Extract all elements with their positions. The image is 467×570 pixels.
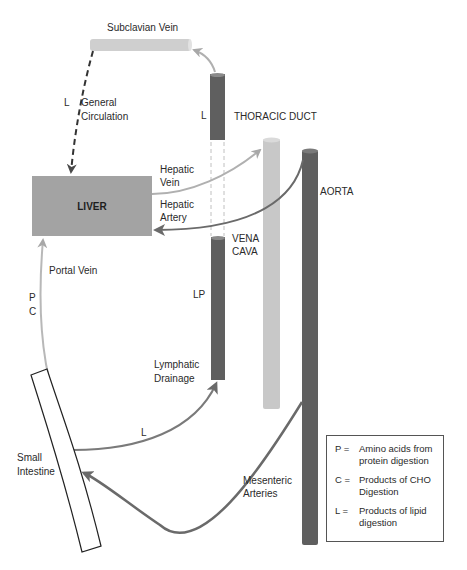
aorta-label: AORTA — [320, 186, 354, 198]
legend-desc: Products of lipid digestion — [359, 505, 437, 529]
legend-row-p: P = Amino acids from protein digestion — [335, 443, 437, 467]
general-circulation-marker: L — [64, 97, 70, 109]
legend-key: P = — [335, 443, 359, 467]
legend-desc: Products of CHO Digestion — [359, 474, 437, 498]
mesenteric-arteries-label-line1: Mesenteric — [243, 475, 292, 487]
thoracic-duct-lower — [211, 236, 225, 380]
legend-box: P = Amino acids from protein digestion C… — [326, 435, 444, 542]
vena-cava — [263, 138, 280, 410]
vena-cava-label-line1: VENA — [232, 233, 259, 245]
vena-cava-label-line2: CAVA — [232, 246, 258, 258]
thoracic-duct-label: THORACIC DUCT — [234, 111, 317, 123]
liver: LIVER — [32, 176, 152, 236]
lymph-marker-lp: LP — [193, 289, 205, 301]
legend-row-l: L = Products of lipid digestion — [335, 505, 437, 529]
subclavian-vein-label: Subclavian Vein — [107, 22, 178, 34]
mesenteric-arteries-label-line2: Arteries — [243, 488, 277, 500]
lymphatic-drainage-label-line1: Lymphatic — [154, 359, 199, 371]
small-intestine-label-line1: Small — [17, 452, 42, 464]
portal-vein-label: Portal Vein — [49, 265, 97, 277]
lymphatic-drainage-label-line2: Drainage — [154, 373, 195, 385]
legend-key: C = — [335, 474, 359, 498]
portal-marker-c: C — [29, 306, 36, 318]
lymphatic-drainage-arrow — [73, 384, 216, 450]
general-circulation-label-line2: Circulation — [81, 111, 128, 123]
thoracic-duct-upper — [210, 73, 225, 140]
mesenteric-arteries-arrow — [84, 402, 302, 533]
small-intestine-label-line2: Intestine — [17, 466, 55, 478]
hepatic-vein-label-line2: Vein — [160, 177, 179, 189]
lipid-path-marker: L — [141, 427, 147, 439]
aorta — [302, 149, 318, 546]
legend-desc: Amino acids from protein digestion — [359, 443, 437, 467]
legend-row-c: C = Products of CHO Digestion — [335, 474, 437, 498]
thoracic-duct-dashed-connection — [211, 142, 224, 236]
hepatic-artery-label-line2: Artery — [160, 212, 187, 224]
hepatic-vein-label-line1: Hepatic — [160, 164, 194, 176]
thoracic-to-subclavian-arrow — [194, 50, 215, 72]
general-circulation-label-line1: General — [81, 97, 117, 109]
legend-key: L = — [335, 505, 359, 529]
subclavian-vein — [90, 39, 192, 51]
thoracic-duct-marker: L — [201, 110, 207, 122]
hepatic-artery-label-line1: Hepatic — [160, 199, 194, 211]
portal-marker-p: P — [29, 292, 36, 304]
liver-label: LIVER — [77, 201, 106, 212]
